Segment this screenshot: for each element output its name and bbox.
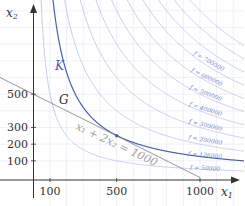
level-curve xyxy=(160,0,244,59)
level-curve-label: f = 126000 xyxy=(187,149,223,161)
y-tick-label: 500 xyxy=(7,88,28,101)
level-curve xyxy=(90,0,244,125)
y-axis-arrow-icon xyxy=(30,4,37,13)
chart-container: f = 700000f = 600000f = 500000f = 400000… xyxy=(0,0,244,206)
x-tick-label: 100 xyxy=(39,185,60,198)
x-tick-label: 500 xyxy=(106,185,127,198)
curve-k-label: K xyxy=(54,59,65,73)
y-tick-label: 300 xyxy=(7,121,28,134)
x-axis-arrow-icon xyxy=(231,177,240,184)
grid xyxy=(0,0,244,206)
x-axis-label: x1 xyxy=(221,185,233,200)
y-axis-label: x2 xyxy=(6,6,18,21)
level-curve xyxy=(132,0,244,85)
y-tick-label: 200 xyxy=(7,138,28,151)
level-curves xyxy=(41,0,245,171)
line-g-label: G xyxy=(59,93,69,107)
tangent-point xyxy=(115,134,119,138)
x-tick-label: 1000 xyxy=(186,185,214,198)
level-curve-label: f = 50000 xyxy=(189,163,221,173)
y-tick-label: 100 xyxy=(7,155,28,168)
